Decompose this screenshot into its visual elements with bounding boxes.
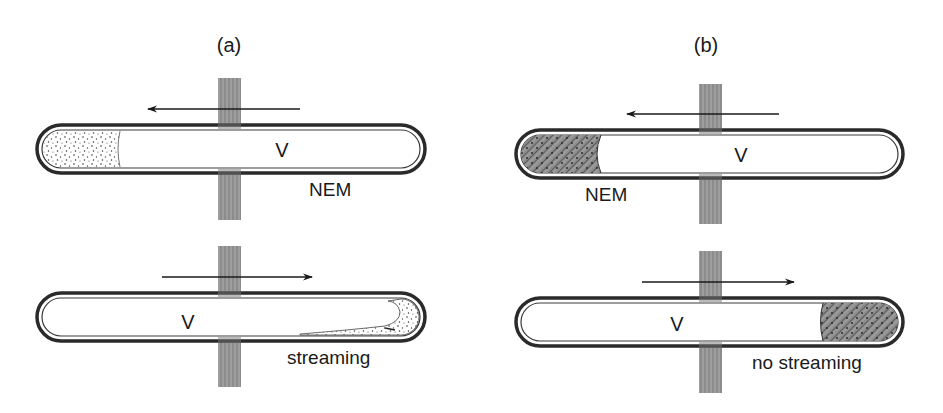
- tube-caption: NEM: [309, 179, 351, 200]
- tube-caption: streaming: [287, 347, 370, 368]
- vessel-label: V: [670, 313, 684, 335]
- tube-caption: NEM: [585, 184, 627, 205]
- capillary-tube: V: [37, 123, 425, 175]
- vessel-label: V: [181, 311, 195, 333]
- panel-label: (a): [217, 34, 241, 56]
- panel-a: (a) V NEM V streaming: [37, 34, 425, 387]
- tube-caption: no streaming: [752, 352, 862, 373]
- vessel-label: V: [275, 139, 289, 161]
- figure-canvas: (a) V NEM V streaming: [0, 0, 943, 413]
- vessel-label: V: [734, 144, 748, 166]
- nem-stippled-fill: [43, 131, 120, 167]
- capillary-tube: V: [516, 128, 903, 180]
- panel-label: (b): [694, 34, 718, 56]
- capillary-tube: V: [37, 291, 425, 343]
- capillary-tube: V: [516, 296, 903, 348]
- panel-b: (b) V NEM V no streaming: [516, 34, 903, 393]
